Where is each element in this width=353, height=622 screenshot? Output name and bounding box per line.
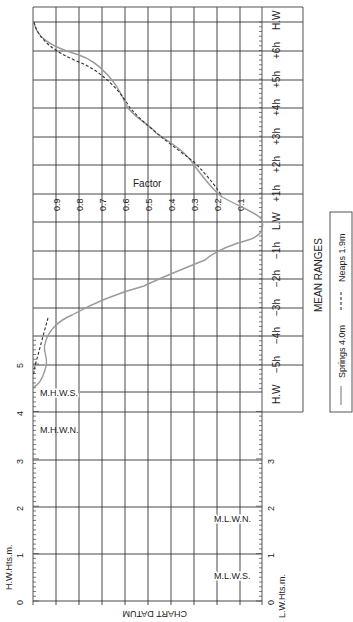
lw-height-axis-label: L.W.Hts.m. <box>277 574 287 618</box>
hw-height-0: 0 <box>15 600 25 605</box>
time-label-plus4: +4h <box>271 99 282 116</box>
lw-height-3: 3 <box>266 459 276 464</box>
springs-legend-label: Springs 4.0m <box>337 325 347 378</box>
time-label-hw-top: H.W <box>271 10 282 30</box>
lw-height-0: 0 <box>266 600 276 605</box>
time-label-plus2: +2h <box>271 156 282 173</box>
neaps-legend-label: Neaps 1.9m <box>337 233 347 282</box>
factor-grid-lines <box>56 7 240 605</box>
hw-height-tick-labels: 0 1 2 3 4 5 <box>15 363 25 605</box>
hw-height-1: 1 <box>15 553 25 558</box>
hw-height-2: 2 <box>15 506 25 511</box>
hw-height-5: 5 <box>15 363 25 368</box>
time-labels: H.W +6h +5h +4h +3h +2h +1h L.W −1h −2h … <box>271 10 282 404</box>
time-label-minus2: −2h <box>271 270 282 287</box>
time-label-minus4: −4h <box>271 327 282 344</box>
time-label-plus6: +6h <box>271 42 282 59</box>
chart-datum-label: CHART DATUM <box>122 609 187 619</box>
hw-height-3: 3 <box>15 459 25 464</box>
time-label-plus5: +5h <box>271 71 282 88</box>
time-label-plus1: +1h <box>271 185 282 202</box>
time-label-lw: L.W <box>271 212 282 230</box>
time-label-hw-bottom: H.W <box>271 384 282 404</box>
hw-axis-minor-ticks <box>33 340 39 601</box>
mlws-label: M.L.W.S. <box>214 571 251 581</box>
lw-height-tick-labels: 0 1 2 3 <box>266 459 276 605</box>
tidal-curve-diagram: 0.9 0.8 0.7 0.6 0.5 0.4 0.3 0.2 0.1 Fact… <box>0 0 353 622</box>
time-label-minus3: −3h <box>271 299 282 316</box>
mhwn-label: M.H.W.N. <box>40 425 79 435</box>
lw-height-2: 2 <box>266 506 276 511</box>
legend-title: MEAN RANGES <box>313 238 324 312</box>
hw-height-axis-label: H.W.Hts.m. <box>4 545 14 591</box>
lw-axis-minor-ticks <box>256 22 262 601</box>
mlwn-label: M.L.W.N. <box>214 514 251 524</box>
factor-label: Factor <box>133 178 162 189</box>
lw-height-1: 1 <box>266 553 276 558</box>
time-label-minus1: −1h <box>271 242 282 259</box>
mhws-label: M.H.W.S. <box>40 388 78 398</box>
time-label-minus5: −5h <box>271 356 282 373</box>
hw-height-4: 4 <box>15 411 25 416</box>
time-label-plus3: +3h <box>271 128 282 145</box>
